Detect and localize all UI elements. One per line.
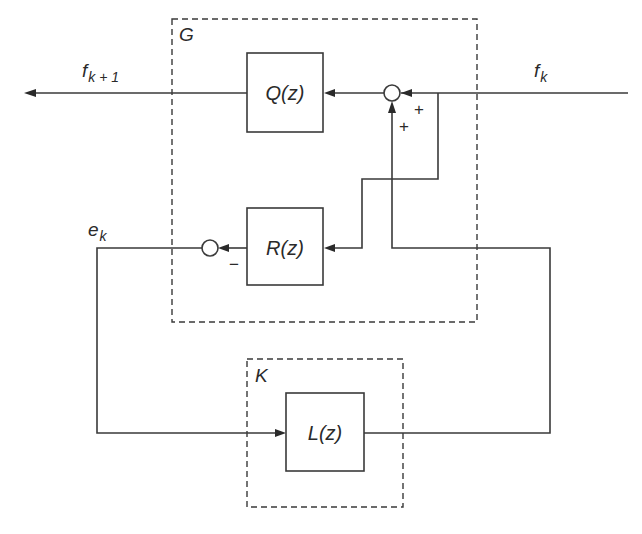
bottom-sum-minus-sign: − <box>229 255 239 274</box>
signal-fk-label: fk <box>534 60 548 85</box>
block-q-label: Q(z) <box>266 82 305 104</box>
block-diagram: G K + + Q(z) fk + 1 fk R(z) − ek L(z) <box>0 0 642 534</box>
signal-fk1-label: fk + 1 <box>82 60 119 85</box>
group-g-boundary <box>172 19 477 322</box>
bottom-summing-junction <box>202 240 218 256</box>
arrowhead-into-l <box>275 429 286 437</box>
top-summing-junction <box>384 85 400 101</box>
arrowhead-fk1-output <box>24 89 36 97</box>
arrowhead-into-q <box>324 89 335 97</box>
top-sum-plus-sign-right: + <box>414 100 424 119</box>
top-sum-plus-sign-bottom: + <box>399 117 409 136</box>
arrowhead-into-top-sum-bottom <box>388 101 396 113</box>
signal-ek-label: ek <box>88 219 108 244</box>
wire-l-feedback-to-top-sum <box>364 112 550 433</box>
group-g-label: G <box>179 24 194 45</box>
block-r-label: R(z) <box>266 237 304 259</box>
block-l-label: L(z) <box>308 422 342 444</box>
arrowhead-into-top-sum <box>401 89 412 97</box>
arrowhead-into-r <box>324 244 335 252</box>
group-k-label: K <box>255 365 269 386</box>
arrowhead-into-bottom-sum <box>218 244 229 252</box>
